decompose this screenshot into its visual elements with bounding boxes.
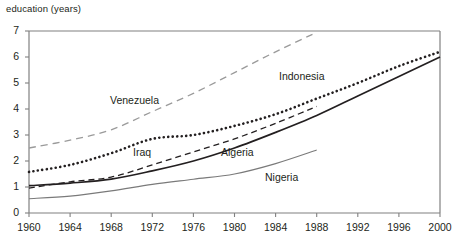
x-tick-label: 1972	[135, 222, 169, 232]
x-tick-label: 1960	[12, 222, 46, 232]
series-paths	[29, 32, 440, 198]
chart-container: education (years) 01234567 1960196419681…	[0, 0, 458, 248]
series-label-algeria: Algeria	[221, 147, 254, 158]
x-tick-label: 1980	[218, 222, 252, 232]
series-label-nigeria: Nigeria	[265, 172, 298, 183]
series-label-indonesia: Indonesia	[279, 71, 325, 82]
x-tick-label: 1996	[382, 222, 416, 232]
y-tick-label: 0	[5, 207, 19, 217]
x-tick-label: 1992	[341, 222, 375, 232]
y-tick-label: 3	[5, 129, 19, 139]
y-tick-label: 5	[5, 77, 19, 87]
x-tick-label: 1968	[94, 222, 128, 232]
x-tick-label: 1964	[53, 222, 87, 232]
y-tick-label: 6	[5, 51, 19, 61]
y-tick-label: 4	[5, 103, 19, 113]
series-line-algeria	[29, 57, 440, 186]
y-tick-label: 1	[5, 181, 19, 191]
x-axis-ticks	[29, 213, 440, 217]
y-tick-label: 7	[5, 25, 19, 35]
series-label-venezuela: Venezuela	[110, 95, 159, 106]
chart-plot-area	[0, 0, 458, 248]
series-label-iraq: Iraq	[133, 147, 151, 158]
x-tick-label: 1976	[176, 222, 210, 232]
x-tick-label: 2000	[423, 222, 457, 232]
series-line-venezuela	[29, 32, 317, 148]
x-tick-label: 1984	[259, 222, 293, 232]
axis-lines	[29, 31, 440, 213]
x-tick-label: 1988	[300, 222, 334, 232]
y-tick-label: 2	[5, 155, 19, 165]
